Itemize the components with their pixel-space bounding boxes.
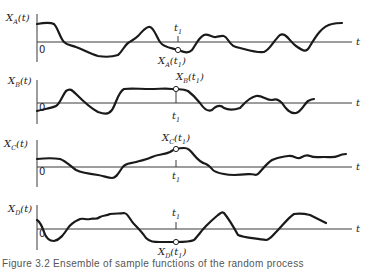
panel-c-sample-label: XC(t1) bbox=[161, 132, 190, 146]
panel-a-t1-label: t1 bbox=[174, 22, 182, 36]
figure-caption: Figure 3.2 Ensemble of sample functions … bbox=[2, 258, 304, 269]
panel-a-t-label: t bbox=[356, 36, 361, 47]
panel-a-sample-label: XA(t1) bbox=[157, 55, 186, 69]
panel-c-t1-label: t1 bbox=[172, 170, 180, 184]
panel-a-origin-label: 0 bbox=[39, 44, 45, 55]
panel-b: XB(t) 0 t t1 XB(t1) bbox=[7, 71, 361, 124]
panel-b-t-label: t bbox=[356, 97, 361, 108]
panel-c-sample-function bbox=[37, 148, 346, 178]
panel-b-y-label: XB(t) bbox=[7, 75, 32, 89]
panel-d-sample-point bbox=[173, 239, 178, 244]
panel-a-sample-function bbox=[37, 23, 342, 57]
panel-b-sample-label: XB(t1) bbox=[175, 71, 204, 85]
panel-d-t-label: t bbox=[356, 223, 361, 234]
panel-d-y-label: XD(t) bbox=[7, 203, 32, 217]
panel-c-t-label: t bbox=[356, 161, 361, 172]
panel-a: XA(t) 0 t t1 XA(t1) bbox=[5, 12, 361, 69]
panel-d: XD(t) 0 t t1 XD(t1) bbox=[7, 203, 361, 260]
panel-c: XC(t) 0 t t1 XC(t1) bbox=[3, 132, 361, 187]
panel-b-t1-label: t1 bbox=[172, 110, 180, 124]
panel-a-y-label: XA(t) bbox=[5, 12, 30, 26]
panel-c-y-label: XC(t) bbox=[3, 138, 28, 152]
panel-b-sample-point bbox=[173, 86, 178, 91]
panel-a-sample-point bbox=[175, 47, 180, 52]
panel-c-origin-label: 0 bbox=[39, 166, 45, 177]
panel-d-sample-function bbox=[37, 212, 326, 242]
panel-c-sample-point bbox=[173, 146, 178, 151]
panel-d-t1-label: t1 bbox=[172, 207, 180, 221]
